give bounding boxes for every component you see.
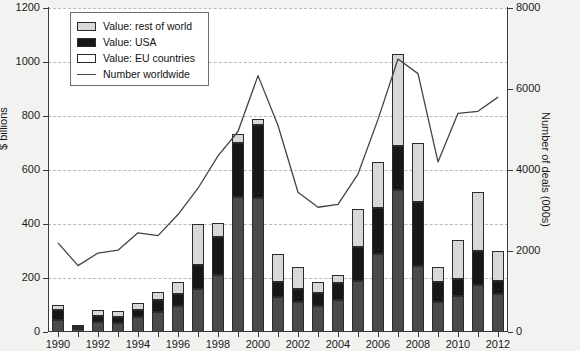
x-tick <box>118 332 119 337</box>
chart-screenshot: 020040060080010001200 02000400060008000 … <box>0 0 580 351</box>
y-tick <box>43 62 48 63</box>
y-axis-right-title: Number of deals (000s) <box>540 112 552 227</box>
legend: Value: rest of world Value: USA Value: E… <box>70 12 209 86</box>
x-tick <box>338 332 339 337</box>
x-tick <box>258 332 259 337</box>
x-tick <box>298 332 299 337</box>
x-tick <box>278 332 279 337</box>
legend-item-number-worldwide: Number worldwide <box>77 66 202 82</box>
x-tick <box>218 332 219 337</box>
legend-label: Value: EU countries <box>103 52 195 64</box>
y-tick-label: 600 <box>0 163 40 175</box>
y2-tick <box>508 89 513 90</box>
x-tick <box>398 332 399 337</box>
x-tick <box>498 332 499 337</box>
y-axis-left-title: $ billions <box>0 107 9 150</box>
x-tick <box>378 332 379 337</box>
legend-item-eu-countries: Value: EU countries <box>77 50 202 66</box>
x-tick <box>458 332 459 337</box>
x-tick <box>98 332 99 337</box>
x-tick <box>138 332 139 337</box>
y-tick-label: 1200 <box>0 1 40 13</box>
y2-tick-label: 6000 <box>516 82 560 94</box>
y-axis-left <box>48 7 49 332</box>
y2-tick <box>508 8 513 9</box>
y-tick-label: 400 <box>0 217 40 229</box>
legend-label: Value: rest of world <box>103 20 192 32</box>
x-tick <box>478 332 479 337</box>
x-tick-label-2012: 2012 <box>475 338 521 350</box>
x-tick <box>358 332 359 337</box>
x-tick <box>238 332 239 337</box>
y-tick <box>43 224 48 225</box>
x-tick <box>58 332 59 337</box>
y2-tick-label: 2000 <box>516 244 560 256</box>
y2-tick <box>508 251 513 252</box>
y-tick <box>43 8 48 9</box>
x-tick <box>318 332 319 337</box>
y-tick-label: 200 <box>0 271 40 283</box>
y2-tick <box>508 332 513 333</box>
y2-tick-label: 0 <box>516 325 560 337</box>
legend-item-usa: Value: USA <box>77 34 202 50</box>
x-tick <box>198 332 199 337</box>
legend-line-icon <box>77 70 96 79</box>
x-tick <box>438 332 439 337</box>
legend-label: Number worldwide <box>103 68 190 80</box>
legend-swatch-icon <box>77 54 96 63</box>
x-tick <box>78 332 79 337</box>
x-tick <box>178 332 179 337</box>
y2-tick-label: 8000 <box>516 1 560 13</box>
y-tick-label: 0 <box>0 325 40 337</box>
y2-tick <box>508 170 513 171</box>
y-tick <box>43 116 48 117</box>
y-tick <box>43 170 48 171</box>
y-tick <box>43 278 48 279</box>
legend-swatch-icon <box>77 22 96 31</box>
x-tick <box>158 332 159 337</box>
legend-swatch-icon <box>77 38 96 47</box>
x-tick <box>418 332 419 337</box>
legend-label: Value: USA <box>103 36 157 48</box>
legend-item-rest-of-world: Value: rest of world <box>77 18 202 34</box>
y-tick <box>43 332 48 333</box>
y-tick-label: 1000 <box>0 55 40 67</box>
y2-tick-label: 4000 <box>516 163 560 175</box>
